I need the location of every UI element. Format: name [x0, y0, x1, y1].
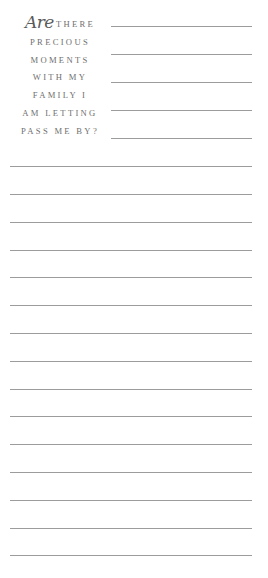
writing-line-short[interactable] — [111, 82, 252, 83]
writing-line[interactable] — [10, 305, 252, 306]
writing-line[interactable] — [10, 277, 252, 278]
prompt-row: FAMILY I — [6, 87, 114, 105]
writing-line[interactable] — [10, 472, 252, 473]
writing-line[interactable] — [10, 528, 252, 529]
writing-line[interactable] — [10, 250, 252, 251]
writing-line[interactable] — [10, 444, 252, 445]
journal-prompt: AreTHERE PRECIOUS MOMENTS WITH MY FAMILY… — [6, 14, 114, 141]
writing-line[interactable] — [10, 222, 252, 223]
writing-line-short[interactable] — [111, 110, 252, 111]
writing-line[interactable] — [10, 555, 252, 556]
prompt-row-1: AreTHERE — [6, 14, 114, 34]
prompt-text: THERE — [56, 19, 95, 29]
prompt-row: MOMENTS — [6, 52, 114, 70]
prompt-script-word: Are — [25, 12, 54, 32]
writing-line[interactable] — [10, 361, 252, 362]
writing-line[interactable] — [10, 194, 252, 195]
prompt-row: WITH MY — [6, 69, 114, 87]
writing-line-short[interactable] — [111, 138, 252, 139]
writing-line-short[interactable] — [111, 54, 252, 55]
writing-line[interactable] — [10, 500, 252, 501]
writing-line-short[interactable] — [111, 26, 252, 27]
writing-line[interactable] — [10, 416, 252, 417]
writing-line[interactable] — [10, 333, 252, 334]
prompt-row: AM LETTING — [6, 105, 114, 123]
writing-line[interactable] — [10, 166, 252, 167]
writing-line[interactable] — [10, 389, 252, 390]
prompt-row: PRECIOUS — [6, 34, 114, 52]
prompt-row: PASS ME BY? — [6, 123, 114, 141]
